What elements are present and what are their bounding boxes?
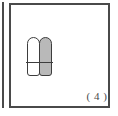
figure-panel: ( 4 ) — [0, 0, 118, 116]
neighbor-panel-edge — [2, 2, 4, 108]
right-capsule-shape — [39, 37, 52, 76]
two-capsule-diagram — [27, 37, 54, 76]
horizontal-divider-line — [26, 62, 53, 63]
figure-caption: ( 4 ) — [81, 90, 113, 103]
panel-frame: ( 4 ) — [9, 3, 110, 108]
